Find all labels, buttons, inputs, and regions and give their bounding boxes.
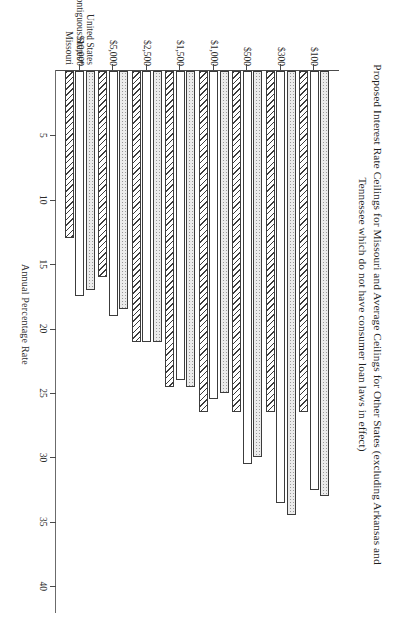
bar-contiguous xyxy=(75,71,84,296)
value-tick-label: 35 xyxy=(38,517,48,527)
bar-contiguous xyxy=(310,71,319,490)
bar-united xyxy=(153,71,162,342)
chart-page: Proposed Interest Rate Ceilings for Miss… xyxy=(0,0,393,629)
plot-area: 510152025303540 Annual Percentage Rate $… xyxy=(0,0,393,629)
bar-missouri xyxy=(98,71,107,277)
value-tick-label: 30 xyxy=(38,453,48,463)
category-tick xyxy=(313,64,314,70)
value-tick-label: 20 xyxy=(38,324,48,334)
value-tick xyxy=(50,135,56,136)
category-tick xyxy=(246,64,247,70)
value-axis-title: Annual Percentage Rate xyxy=(20,0,31,629)
value-tick-label: 25 xyxy=(38,388,48,398)
chart-figure: Proposed Interest Rate Ceilings for Miss… xyxy=(0,0,393,629)
value-tick-label: 15 xyxy=(38,259,48,269)
category-tick xyxy=(179,64,180,70)
bar-missouri xyxy=(232,71,241,412)
legend-item-united: United States xyxy=(85,0,95,65)
bar-united xyxy=(220,71,229,393)
category-tick xyxy=(112,64,113,70)
category-label: $2,500 xyxy=(142,18,152,66)
value-axis-line xyxy=(55,70,56,613)
value-tick xyxy=(50,522,56,523)
bar-missouri xyxy=(132,71,141,342)
bar-contiguous xyxy=(176,71,185,380)
bar-contiguous xyxy=(109,71,118,316)
category-label: $100 xyxy=(309,18,319,66)
bar-missouri xyxy=(165,71,174,387)
category-label: $500 xyxy=(242,18,252,66)
category-label: $300 xyxy=(276,18,286,66)
bar-missouri xyxy=(199,71,208,412)
value-tick xyxy=(50,586,56,587)
value-tick xyxy=(50,457,56,458)
bar-contiguous xyxy=(276,71,285,503)
bar-missouri xyxy=(266,71,275,412)
bar-united xyxy=(253,71,262,457)
bar-missouri xyxy=(299,71,308,412)
bar-contiguous xyxy=(243,71,252,464)
bar-contiguous xyxy=(209,71,218,399)
category-label: $1,500 xyxy=(175,18,185,66)
category-tick xyxy=(280,64,281,70)
bar-united xyxy=(86,71,95,290)
bar-contiguous xyxy=(142,71,151,342)
bar-united xyxy=(119,71,128,309)
bar-missouri xyxy=(65,71,74,238)
category-tick xyxy=(213,64,214,70)
value-tick xyxy=(50,264,56,265)
legend-item-missouri: Missouri xyxy=(64,0,74,65)
value-tick xyxy=(50,200,56,201)
bar-united xyxy=(186,71,195,387)
value-tick xyxy=(50,329,56,330)
bar-united xyxy=(320,71,329,496)
category-tick xyxy=(146,64,147,70)
value-tick-label: 10 xyxy=(38,195,48,205)
category-label: $5,000 xyxy=(108,18,118,66)
legend-item-contiguous: Contiguous States* xyxy=(75,0,85,65)
value-tick xyxy=(50,393,56,394)
value-tick-label: 5 xyxy=(38,133,48,138)
bar-united xyxy=(287,71,296,515)
category-label: $1,000 xyxy=(209,18,219,66)
value-tick-label: 40 xyxy=(38,581,48,591)
